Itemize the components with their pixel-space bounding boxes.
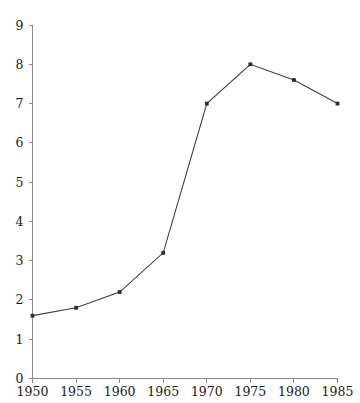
data-point-marker bbox=[74, 306, 78, 310]
data-point-marker bbox=[118, 290, 122, 294]
y-tick-label: 5 bbox=[16, 175, 24, 190]
y-tick-label: 9 bbox=[16, 18, 24, 33]
line-chart: 0123456789 19501955196019651970197519801… bbox=[0, 0, 360, 403]
x-tick-label: 1950 bbox=[17, 384, 49, 399]
x-tick-label: 1980 bbox=[278, 384, 310, 399]
x-tick-label: 1975 bbox=[234, 384, 266, 399]
data-point-marker bbox=[161, 251, 165, 255]
x-tick-label: 1970 bbox=[191, 384, 223, 399]
y-tick-label: 1 bbox=[16, 332, 24, 347]
x-tick-label: 1955 bbox=[60, 384, 92, 399]
x-tick-label: 1985 bbox=[322, 384, 354, 399]
y-tick-label: 4 bbox=[16, 214, 24, 229]
y-tick-label: 3 bbox=[16, 253, 24, 268]
data-point-marker bbox=[336, 102, 340, 106]
y-tick-label: 2 bbox=[16, 292, 24, 307]
y-tick-label: 6 bbox=[16, 135, 24, 150]
data-point-marker bbox=[31, 314, 35, 318]
x-tick-label: 1965 bbox=[147, 384, 179, 399]
data-point-marker bbox=[205, 102, 209, 106]
y-tick-label: 7 bbox=[16, 96, 24, 111]
chart-background bbox=[0, 0, 360, 403]
data-point-marker bbox=[248, 62, 252, 66]
chart-plot-area: 0123456789 19501955196019651970197519801… bbox=[0, 0, 360, 403]
x-tick-label: 1960 bbox=[104, 384, 136, 399]
y-tick-label: 8 bbox=[16, 57, 24, 72]
data-point-marker bbox=[292, 78, 296, 82]
